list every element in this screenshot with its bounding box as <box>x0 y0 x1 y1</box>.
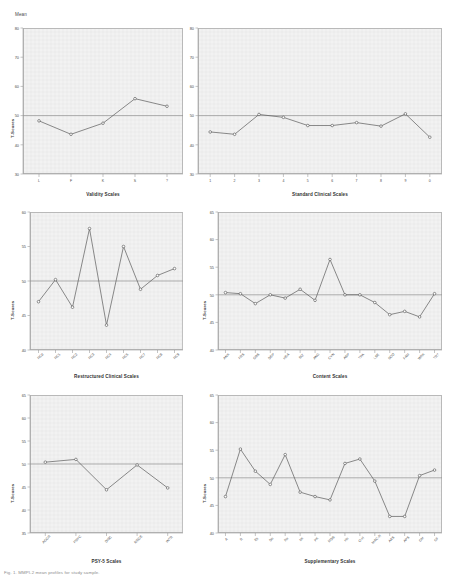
y-axis-tick: 50 <box>202 476 214 481</box>
figure-page: Mean T-Scores Validity Scales 3040506070… <box>0 0 456 582</box>
x-axis-tick: 2 <box>234 179 236 183</box>
chart-panel-validity: T-Scores Validity Scales 304050607080LFK… <box>0 20 190 205</box>
chart-panel-psy5: T-Scores PSY-5 Scales 35404550556065AGGR… <box>0 385 190 580</box>
x-axis-tick: 4 <box>282 179 284 183</box>
y-axis-tick: 40 <box>182 143 194 148</box>
x-axis-tick: 3 <box>258 179 260 183</box>
figure-caption: Fig. 1. MMPI-2 mean profiles for study s… <box>4 570 100 575</box>
x-axis-tick: 9 <box>404 179 406 183</box>
plot-svg <box>0 202 190 392</box>
y-axis-tick: 30 <box>7 172 19 177</box>
chart-panel-content: T-Scores Content Scales 404550556065ANXF… <box>186 202 456 392</box>
y-axis-tick: 50 <box>7 113 19 118</box>
x-axis-tick: K <box>102 179 104 183</box>
y-axis-tick: 60 <box>202 420 214 425</box>
y-axis-tick: 65 <box>14 393 26 398</box>
y-axis-tick: 70 <box>182 55 194 60</box>
x-axis-tick: ? <box>166 179 168 183</box>
y-axis-tick: 55 <box>202 265 214 270</box>
y-axis-tick: 55 <box>14 244 26 249</box>
y-axis-tick: 55 <box>14 439 26 444</box>
y-axis-tick: 55 <box>202 448 214 453</box>
y-axis-tick: 50 <box>14 279 26 284</box>
plot-svg <box>0 385 190 580</box>
y-axis-tick: 60 <box>7 84 19 89</box>
y-axis-tick: 45 <box>202 320 214 325</box>
x-axis-tick: 8 <box>380 179 382 183</box>
plot-svg <box>186 20 456 205</box>
x-axis-tick: 7 <box>356 179 358 183</box>
x-axis-title: Content Scales <box>218 374 442 379</box>
x-axis-title: Validity Scales <box>23 192 183 197</box>
y-axis-tick: 40 <box>7 143 19 148</box>
x-axis-title: PSY-5 Scales <box>30 559 183 564</box>
x-axis-tick: 5 <box>307 179 309 183</box>
y-axis-tick: 35 <box>14 531 26 536</box>
y-axis-tick: 40 <box>202 531 214 536</box>
plot-svg <box>0 20 190 205</box>
chart-panel-restructured-clinical: T-Scores Restructured Clinical Scales 40… <box>0 202 190 392</box>
y-axis-tick: 60 <box>14 416 26 421</box>
x-axis-tick: 6 <box>331 179 333 183</box>
x-axis-title: Standard Clinical Scales <box>198 192 442 197</box>
y-axis-tick: 45 <box>14 313 26 318</box>
y-axis-tick: 50 <box>202 293 214 298</box>
x-axis-title: Supplementary Scales <box>218 559 442 564</box>
y-axis-tick: 65 <box>202 210 214 215</box>
chart-panel-supplementary: T-Scores Supplementary Scales 4045505560… <box>186 385 456 580</box>
x-axis-tick: 0 <box>429 179 431 183</box>
y-axis-tick: 60 <box>182 84 194 89</box>
y-axis-tick: 45 <box>202 503 214 508</box>
y-axis-tick: 40 <box>14 348 26 353</box>
plot-svg <box>186 202 456 392</box>
x-axis-tick: F <box>70 179 72 183</box>
y-axis-tick: 50 <box>182 113 194 118</box>
x-axis-tick: S <box>134 179 136 183</box>
y-axis-tick: 30 <box>182 172 194 177</box>
x-axis-tick: 1 <box>209 179 211 183</box>
y-axis-tick: 80 <box>182 26 194 31</box>
chart-panel-standard-clinical: Standard Clinical Scales 304050607080123… <box>186 20 456 205</box>
y-axis-tick: 40 <box>202 348 214 353</box>
mean-label: Mean <box>15 12 27 17</box>
y-axis-tick: 60 <box>14 210 26 215</box>
x-axis-tick: L <box>38 179 40 183</box>
y-axis-tick: 50 <box>14 462 26 467</box>
y-axis-tick: 80 <box>7 26 19 31</box>
y-axis-tick: 70 <box>7 55 19 60</box>
y-axis-tick: 45 <box>14 485 26 490</box>
x-axis-title: Restructured Clinical Scales <box>30 374 183 379</box>
y-axis-tick: 65 <box>202 393 214 398</box>
plot-svg <box>186 385 456 580</box>
y-axis-tick: 60 <box>202 237 214 242</box>
y-axis-tick: 40 <box>14 508 26 513</box>
